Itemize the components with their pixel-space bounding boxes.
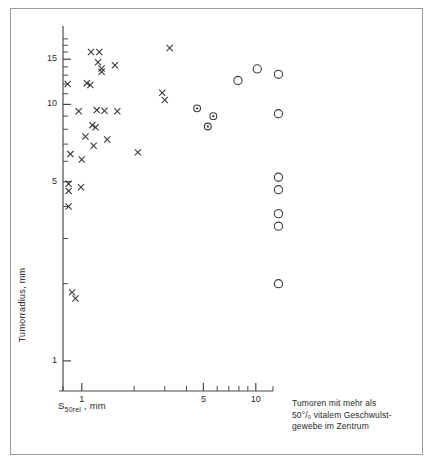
data-point-circle (274, 70, 282, 78)
data-point-circle (274, 280, 282, 288)
data-point-cross (66, 188, 72, 194)
data-point-cross (162, 97, 168, 103)
data-point-cross (114, 108, 120, 114)
data-point-cross (99, 65, 105, 71)
axes-group (59, 26, 273, 391)
data-point-cross (72, 295, 78, 301)
data-point-cross (79, 156, 85, 162)
data-point-circle-dot (194, 105, 201, 112)
data-point-cross (76, 108, 82, 114)
legend-caption: Tumoren mit mehr als 50°/₀ vitalem Gesch… (292, 398, 422, 433)
x-tick-label: 5 (188, 394, 218, 404)
data-point-cross (135, 149, 141, 155)
data-point-circle (274, 173, 282, 181)
data-point-circle (274, 110, 282, 118)
y-tick-label: 5 (29, 176, 57, 186)
data-point-circle (274, 186, 282, 194)
circle-center-dot (212, 115, 214, 117)
x-tick-label: 10 (241, 394, 271, 404)
data-point-cross (112, 62, 118, 68)
circle-outline (234, 76, 242, 84)
data-point-cross (89, 122, 95, 128)
circle-outline (274, 222, 282, 230)
circle-outline (274, 70, 282, 78)
circle-outline (274, 186, 282, 194)
x-tick-label: 1 (67, 394, 97, 404)
circle-outline (274, 210, 282, 218)
data-markers-group (65, 45, 283, 302)
circle-outline (274, 280, 282, 288)
y-tick-label: 1 (29, 355, 57, 365)
data-point-circle (253, 65, 261, 73)
circle-center-dot (196, 107, 198, 109)
circle-outline (253, 65, 261, 73)
data-point-cross (94, 107, 100, 113)
data-point-cross (159, 90, 165, 96)
data-point-circle-dot (210, 113, 217, 120)
legend-caption-line-3: gewebe im Zentrum (292, 421, 422, 433)
data-point-cross (104, 136, 110, 142)
data-point-cross (101, 108, 107, 114)
data-point-cross (78, 184, 84, 190)
x-axis-label-sub: 50rel (65, 406, 82, 413)
circle-outline (274, 110, 282, 118)
data-point-cross (96, 49, 102, 55)
circle-center-dot (207, 125, 209, 127)
data-point-cross (92, 124, 98, 130)
data-point-cross (88, 49, 94, 55)
data-point-cross (167, 45, 173, 51)
data-point-cross (69, 289, 75, 295)
data-point-cross (91, 143, 97, 149)
data-point-circle (274, 222, 282, 230)
y-axis-label: Tumorradius, mm (17, 255, 27, 355)
data-point-cross (95, 59, 101, 65)
data-point-circle (234, 76, 242, 84)
y-tick-label: 15 (29, 53, 57, 63)
figure-page: Tumorradius, mm S50rel , mm Tumoren mit … (0, 0, 435, 468)
data-point-cross (99, 69, 105, 75)
data-point-circle (274, 210, 282, 218)
circle-outline (274, 173, 282, 181)
y-tick-label: 10 (29, 98, 57, 108)
data-point-cross (82, 133, 88, 139)
legend-caption-line-1: Tumoren mit mehr als (292, 398, 422, 410)
data-point-circle-dot (204, 123, 211, 130)
legend-caption-line-2: 50°/₀ vitalem Geschwulst- (292, 410, 422, 422)
data-point-cross (67, 151, 73, 157)
